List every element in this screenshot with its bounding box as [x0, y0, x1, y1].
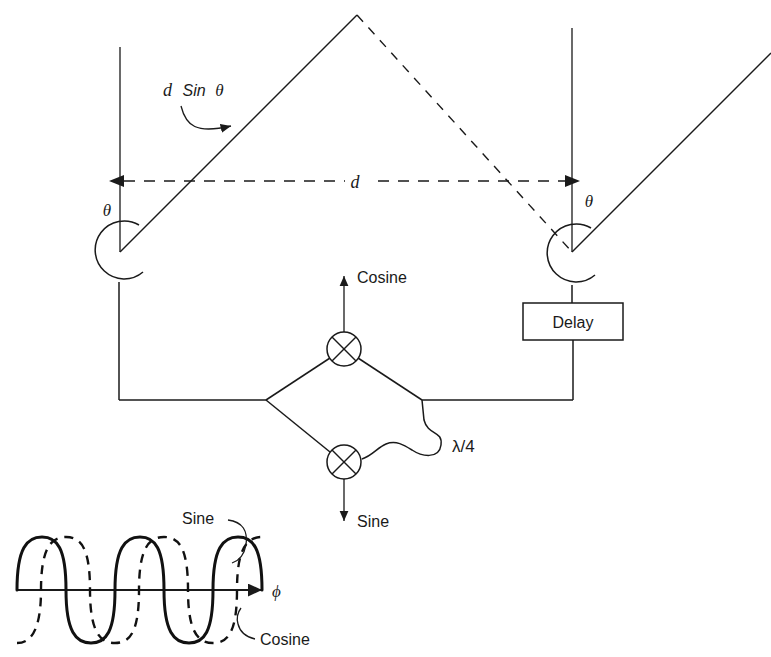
sine-output-label: Sine [357, 513, 389, 530]
quadrature-waveform-plot: ϕ Sine Cosine [17, 510, 310, 648]
plot-sine-label: Sine [182, 510, 214, 527]
incident-ray-right [572, 53, 771, 252]
diamond-arm-left-bottom [266, 400, 330, 452]
quarter-wave-delay-loop [362, 400, 441, 459]
diagram-canvas: d θ θ d Sin θ Delay λ/4 [0, 0, 771, 657]
left-antenna-icon [95, 221, 143, 279]
bottom-mixer[interactable] [327, 445, 361, 479]
path-difference-label: d Sin θ [163, 80, 223, 100]
path-difference-sin: Sin [183, 82, 206, 99]
plot-cosine-label: Cosine [260, 631, 310, 648]
diamond-arm-left-top [266, 358, 330, 400]
wavefront-dashed-segment [357, 15, 572, 252]
diamond-arm-top-right [358, 358, 422, 400]
phi-axis-label: ϕ [272, 582, 281, 601]
top-mixer[interactable] [327, 332, 361, 366]
path-difference-d: d [163, 80, 173, 100]
schematic-svg: d θ θ d Sin θ Delay λ/4 [0, 0, 771, 657]
path-difference-callout-arrow [181, 106, 231, 129]
incident-ray-left [120, 15, 357, 252]
cosine-output-label: Cosine [357, 269, 407, 286]
baseline-label: d [351, 172, 361, 192]
theta-label-left: θ [103, 201, 111, 220]
quarter-wave-label: λ/4 [452, 437, 475, 456]
plot-cosine-callout-arrow [237, 608, 255, 639]
delay-block-label: Delay [553, 314, 594, 331]
theta-label-right: θ [585, 192, 593, 211]
plot-sine-callout-arrow [228, 520, 246, 563]
path-difference-theta: θ [215, 81, 223, 100]
